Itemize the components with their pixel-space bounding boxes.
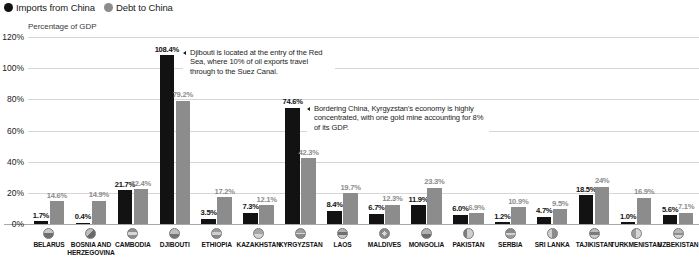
bar-debt[interactable]: [92, 201, 107, 224]
bar-value-debt: 17.2%: [207, 187, 243, 196]
bar-imports[interactable]: [369, 214, 384, 224]
bar-group: 1.0%16.9%: [621, 33, 652, 228]
country-label: SERBIA: [498, 241, 522, 249]
bar-imports[interactable]: [579, 195, 594, 224]
country-label: TAJIKISTAN: [576, 241, 613, 249]
x-axis-tick: MALDIVES: [364, 228, 406, 249]
bar-debt[interactable]: [511, 207, 526, 224]
bar-debt[interactable]: [469, 213, 484, 224]
bar-imports[interactable]: [243, 213, 258, 224]
chart-root: Imports from China Debt to China Percent…: [0, 0, 699, 270]
bar-imports[interactable]: [285, 108, 300, 224]
bar-imports[interactable]: [537, 217, 552, 224]
bar-imports[interactable]: [621, 222, 636, 224]
bar-value-debt: 24%: [584, 176, 620, 185]
bar-debt[interactable]: [301, 158, 316, 224]
annotation-djibouti-text: Djibouti is located at the entry of the …: [190, 48, 322, 76]
flag-icon: [505, 228, 516, 239]
bar-debt[interactable]: [217, 197, 232, 224]
flag-icon: [379, 228, 390, 239]
y-axis-tick-label: 100%: [0, 63, 24, 73]
bar-imports[interactable]: [160, 55, 175, 224]
bar-imports[interactable]: [34, 221, 49, 224]
flag-icon: [43, 228, 54, 239]
bar-group: 5.6%7.1%: [663, 33, 694, 228]
bar-value-debt: 10.9%: [500, 197, 536, 206]
y-axis-tick-label: 80%: [0, 94, 24, 104]
flag-icon: [463, 228, 474, 239]
bar-debt[interactable]: [385, 205, 400, 224]
bar-value-debt: 19.7%: [333, 183, 369, 192]
bar-debt[interactable]: [595, 187, 610, 224]
bar-value-imports: 74.6%: [275, 97, 311, 106]
flag-icon: [85, 228, 96, 239]
country-label: MONGOLIA: [409, 241, 444, 249]
country-label: DJIBOUTI: [160, 241, 190, 249]
flag-icon: [547, 228, 558, 239]
country-label: KYRGYZSTAN: [279, 241, 323, 249]
triangle-left-icon: [183, 51, 186, 55]
x-axis-tick: TURKMENISTAN: [615, 228, 657, 249]
flag-icon: [127, 228, 138, 239]
y-axis-tick-label: 0%: [0, 219, 24, 229]
y-axis-tick-label: 60%: [0, 126, 24, 136]
bar-group: 21.7%22.4%: [118, 33, 149, 228]
bar-imports[interactable]: [411, 205, 426, 224]
bar-debt[interactable]: [343, 193, 358, 224]
bar-debt[interactable]: [637, 198, 652, 224]
bar-value-debt: 22.4%: [123, 179, 159, 188]
y-axis-tick-label: 120%: [0, 32, 24, 42]
bar-value-debt: 12.1%: [249, 195, 285, 204]
bar-value-debt: 9.5%: [542, 199, 578, 208]
flag-icon: [295, 228, 306, 239]
bar-debt[interactable]: [427, 188, 442, 224]
flag-icon: [337, 228, 348, 239]
bar-value-debt: 7.1%: [668, 202, 699, 211]
y-axis-title: Percentage of GDP: [28, 22, 97, 31]
y-axis-tick-label: 40%: [0, 157, 24, 167]
x-axis-tick: KAZAKHSTAN: [238, 228, 280, 249]
flag-icon: [421, 228, 432, 239]
bar-value-debt: 42.3%: [291, 148, 327, 157]
country-label: CAMBODIA: [115, 241, 150, 249]
annotation-kyrgyzstan: Bordering China, Kyrgyzstan's economy is…: [307, 104, 489, 132]
x-axis-tick: CAMBODIA: [112, 228, 154, 249]
country-label: TURKMENISTAN: [611, 241, 662, 249]
flag-icon: [169, 228, 180, 239]
bar-imports[interactable]: [495, 222, 510, 224]
country-label: KAZAKHSTAN: [237, 241, 281, 249]
x-axis-tick: TAJIKISTAN: [573, 228, 615, 249]
bar-debt[interactable]: [553, 209, 568, 224]
x-axis-tick: BELARUS: [28, 228, 70, 249]
bar-group: 1.7%14.6%: [34, 33, 65, 228]
bar-imports[interactable]: [76, 223, 91, 225]
x-axis-tick: KYRGYZSTAN: [280, 228, 322, 249]
triangle-left-icon: [307, 107, 310, 111]
x-axis-tick: UZBEKISTAN: [657, 228, 699, 249]
bar-value-debt: 14.6%: [39, 191, 75, 200]
filled-circle-icon: [4, 3, 13, 12]
bar-group: 0.4%14.9%: [76, 33, 107, 228]
annotation-djibouti: Djibouti is located at the entry of the …: [183, 48, 335, 76]
legend-item-debt: Debt to China: [104, 3, 173, 13]
bar-debt[interactable]: [259, 205, 274, 224]
bar-debt[interactable]: [134, 189, 149, 224]
bar-imports[interactable]: [327, 211, 342, 224]
bar-debt[interactable]: [679, 213, 694, 224]
bar-value-debt: 16.9%: [626, 187, 662, 196]
country-label: UZBEKISTAN: [658, 241, 699, 249]
x-axis-tick: DJIBOUTI: [154, 228, 196, 249]
bar-group: 4.7%9.5%: [537, 33, 568, 228]
bar-debt[interactable]: [50, 201, 65, 224]
bar-imports[interactable]: [663, 215, 678, 224]
y-axis-tick-label: 20%: [0, 188, 24, 198]
annotation-kyrgyzstan-text: Bordering China, Kyrgyzstan's economy is…: [314, 104, 483, 132]
bar-imports[interactable]: [201, 219, 216, 224]
x-axis-tick: LAOS: [322, 228, 364, 249]
bar-debt[interactable]: [176, 101, 191, 224]
x-axis-tick: SERBIA: [489, 228, 531, 249]
bar-imports[interactable]: [453, 215, 468, 224]
bar-imports[interactable]: [118, 190, 133, 224]
country-label: ETHIOPIA: [202, 241, 232, 249]
bar-value-imports: 108.4%: [149, 45, 185, 54]
